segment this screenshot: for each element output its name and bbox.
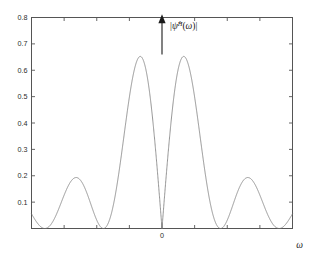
chart-background xyxy=(0,0,313,263)
x-axis-tick-label-zero: 0 xyxy=(160,231,164,240)
y-tick-label-0.5: 0.5 xyxy=(18,92,28,101)
y-tick-label-0.8: 0.8 xyxy=(18,13,28,22)
x-tick-label-0: 0 xyxy=(160,231,164,240)
y-tick-label-0.1: 0.1 xyxy=(18,198,28,207)
chart-plot: 0.10.20.30.40.50.60.70.8 0 ω |ψ̂H(ω)| xyxy=(0,0,313,263)
curve-annotation-label: |ψ̂H(ω)| xyxy=(170,20,198,32)
y-tick-label-0.2: 0.2 xyxy=(18,171,28,180)
label-close-bar: | xyxy=(196,21,198,31)
y-tick-label-0.7: 0.7 xyxy=(18,39,28,48)
y-tick-label-0.3: 0.3 xyxy=(18,145,28,154)
curve-label-text: |ψ̂H(ω)| xyxy=(170,20,198,32)
y-tick-label-0.6: 0.6 xyxy=(18,66,28,75)
x-axis-label: ω xyxy=(296,240,303,250)
y-tick-label-0.4: 0.4 xyxy=(18,119,28,128)
figure-container: 0.10.20.30.40.50.60.70.8 0 ω |ψ̂H(ω)| xyxy=(0,0,313,263)
